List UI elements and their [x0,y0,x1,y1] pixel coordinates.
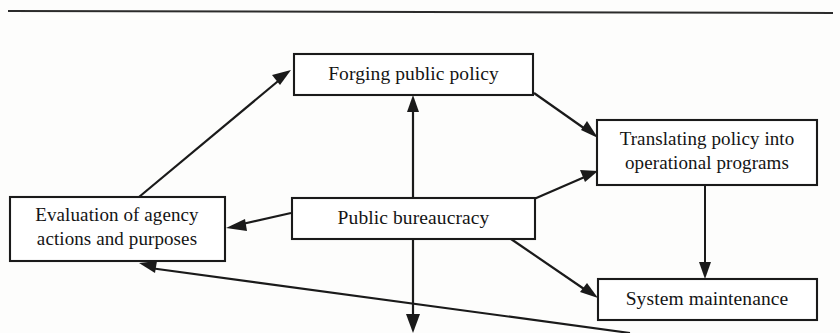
node-system-maintenance[interactable]: System maintenance [598,279,817,320]
translating-policy-label-line1: Translating policy into [620,128,795,149]
edge-maintenance-to-evaluation [139,261,630,333]
node-evaluation-of-agency[interactable]: Evaluation of agency actions and purpose… [10,197,225,261]
node-translating-policy[interactable]: Translating policy into operational prog… [597,120,817,185]
edge-bureaucracy-downward [406,239,420,333]
edge-evaluation-to-forging [139,70,291,197]
public-bureaucracy-label: Public bureaucracy [338,207,490,228]
top-horizontal-rule [8,11,833,13]
system-maintenance-label: System maintenance [626,288,789,309]
edge-bureaucracy-to-forging [407,95,419,198]
forging-public-policy-label: Forging public policy [328,63,499,84]
edge-bureaucracy-to-translating [534,170,598,199]
edge-translating-to-maintenance [699,186,711,279]
translating-policy-label-line2: operational programs [625,152,789,173]
node-forging-public-policy[interactable]: Forging public policy [294,54,533,95]
evaluation-of-agency-label-line2: actions and purposes [37,228,197,249]
edge-forging-to-translating [534,93,598,138]
figure-page: Forging public policy Translating policy… [0,0,840,333]
edge-bureaucracy-to-evaluation [226,213,291,231]
node-public-bureaucracy[interactable]: Public bureaucracy [292,198,535,239]
edge-bureaucracy-to-maintenance [511,239,598,298]
flow-diagram: Forging public policy Translating policy… [0,0,840,333]
evaluation-of-agency-label-line1: Evaluation of agency [35,204,199,225]
